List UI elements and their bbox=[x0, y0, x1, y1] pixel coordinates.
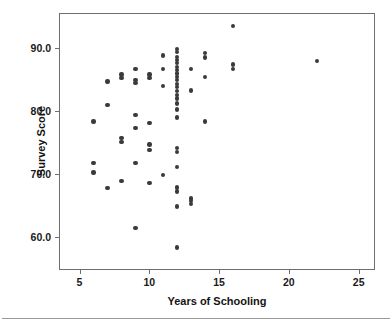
data-point bbox=[133, 126, 137, 130]
y-axis-tick bbox=[55, 48, 60, 49]
x-axis-tick-label: 25 bbox=[353, 276, 365, 288]
data-point bbox=[175, 245, 179, 249]
x-axis-title: Years of Schooling bbox=[59, 295, 375, 307]
data-point bbox=[175, 96, 179, 100]
y-axis-tick-label: 60.0 bbox=[31, 231, 51, 243]
y-axis-tick-label: 90.0 bbox=[31, 42, 51, 54]
data-point bbox=[161, 173, 165, 177]
figure-root: 60.070.080.090.0 510152025 Survey Score … bbox=[0, 0, 392, 326]
data-point bbox=[189, 202, 193, 206]
data-point bbox=[175, 150, 179, 154]
data-point bbox=[203, 119, 207, 123]
data-point bbox=[189, 67, 193, 71]
data-point bbox=[203, 75, 207, 79]
data-point bbox=[91, 161, 95, 165]
data-point bbox=[175, 204, 179, 208]
data-point bbox=[175, 50, 179, 54]
data-point bbox=[147, 148, 151, 152]
scatter-points-layer bbox=[60, 14, 374, 269]
x-axis-tick-label: 10 bbox=[143, 276, 155, 288]
data-point bbox=[231, 24, 235, 28]
data-point bbox=[175, 165, 179, 169]
data-point bbox=[147, 121, 151, 125]
data-point bbox=[133, 226, 137, 230]
data-point bbox=[105, 103, 109, 107]
x-axis-tick bbox=[289, 269, 290, 274]
y-axis-tick bbox=[55, 174, 60, 175]
plot-frame: 60.070.080.090.0 510152025 bbox=[59, 13, 375, 270]
data-point bbox=[175, 115, 179, 119]
data-point bbox=[203, 55, 207, 59]
data-point bbox=[119, 76, 123, 80]
data-point bbox=[189, 88, 193, 92]
data-point bbox=[315, 59, 319, 63]
x-axis-tick bbox=[80, 269, 81, 274]
data-point bbox=[175, 189, 179, 193]
y-axis-tick bbox=[55, 111, 60, 112]
data-point bbox=[91, 170, 95, 174]
data-point bbox=[133, 113, 137, 117]
x-axis-tick bbox=[149, 269, 150, 274]
data-point bbox=[119, 179, 123, 183]
data-point bbox=[119, 140, 123, 144]
x-axis-tick bbox=[219, 269, 220, 274]
x-axis-tick-label: 5 bbox=[77, 276, 83, 288]
data-point bbox=[147, 142, 151, 146]
y-axis-title: Survey Score bbox=[35, 106, 47, 176]
x-axis-tick bbox=[359, 269, 360, 274]
data-point bbox=[231, 67, 235, 71]
data-point bbox=[147, 181, 151, 185]
footer-divider bbox=[2, 318, 390, 319]
x-axis-tick-label: 15 bbox=[213, 276, 225, 288]
data-point bbox=[161, 53, 165, 57]
data-point bbox=[175, 107, 179, 111]
data-point bbox=[161, 67, 165, 71]
data-point bbox=[133, 67, 137, 71]
data-point bbox=[91, 119, 95, 123]
data-point bbox=[161, 84, 165, 88]
data-point bbox=[147, 76, 151, 80]
data-point bbox=[133, 161, 137, 165]
data-point bbox=[133, 81, 137, 85]
x-axis-tick-label: 20 bbox=[283, 276, 295, 288]
data-point bbox=[105, 79, 109, 83]
y-axis-tick bbox=[55, 237, 60, 238]
data-point bbox=[105, 186, 109, 190]
data-point bbox=[175, 101, 179, 105]
